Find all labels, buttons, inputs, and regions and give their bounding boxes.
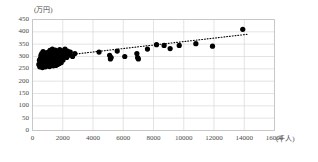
grid-lines <box>33 20 275 131</box>
y-tick-label: 200 <box>4 77 29 85</box>
y-tick-label: 250 <box>4 64 29 72</box>
y-tick-label: 450 <box>4 15 29 23</box>
y-tick-label: 300 <box>4 52 29 60</box>
y-tick-label: 400 <box>4 27 29 35</box>
x-tick-label: 16000 <box>255 134 295 142</box>
y-tick-label: 50 <box>4 114 29 122</box>
y-tick-label: 100 <box>4 101 29 109</box>
scatter-chart-figure: (万円) (千人) 050100150200250300350400450 02… <box>0 0 318 162</box>
y-tick-label: 350 <box>4 40 29 48</box>
y-tick-label: 150 <box>4 89 29 97</box>
